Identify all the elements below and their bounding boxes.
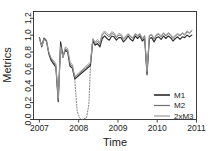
legend-label-2xm3: 2xM3 [174, 112, 194, 121]
x-tick-label: 2009 [108, 123, 127, 133]
x-tick-label: 2007 [30, 123, 49, 133]
x-tick-label: 2011 [187, 123, 206, 133]
series-line-2xm3 [39, 30, 191, 98]
y-tick-label: 0.6 [23, 63, 33, 75]
y-tick-label: 1.0 [23, 29, 33, 41]
plot-frame [34, 12, 197, 120]
x-axis-title: Time [103, 136, 127, 148]
legend-label-m1: M1 [174, 91, 186, 100]
y-tick-label: 1.2 [23, 12, 33, 24]
series-line-m1 [39, 35, 191, 102]
chart-figure: 0.00.20.40.60.81.01.2 200720082009201020… [0, 0, 208, 151]
y-tick-label: 0.8 [23, 46, 33, 58]
series-line-m2 [39, 31, 191, 100]
legend-label-m2: M2 [174, 101, 186, 110]
x-tick-label: 2010 [148, 123, 167, 133]
x-tick-label: 2008 [69, 123, 88, 133]
series-line-dashed-gap [75, 66, 91, 120]
dashed-gap-series [75, 66, 91, 120]
data-series-group [39, 30, 191, 102]
y-axis-title: Metrics [1, 47, 13, 83]
x-axis-tick-labels: 20072008200920102011 [30, 123, 206, 133]
chart-legend: M1M22xM3 [154, 91, 194, 121]
y-axis-tick-labels: 0.00.20.40.60.81.01.2 [23, 12, 33, 125]
y-tick-label: 0.4 [23, 80, 33, 92]
y-tick-label: 0.2 [23, 96, 33, 108]
chart-svg: 0.00.20.40.60.81.01.2 200720082009201020… [0, 0, 208, 151]
